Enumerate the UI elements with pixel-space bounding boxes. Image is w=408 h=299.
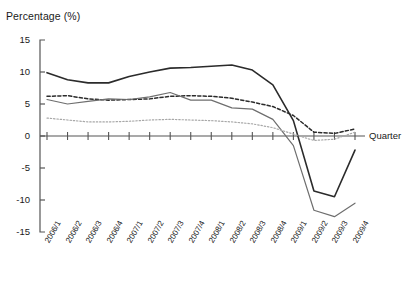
series-line-2 (47, 92, 355, 216)
series-line-3 (47, 118, 355, 140)
plot-area (0, 0, 408, 299)
series-line-0 (47, 65, 355, 197)
chart-container: Percentage (%) 151050-5-10-15 2006/12006… (0, 0, 408, 299)
